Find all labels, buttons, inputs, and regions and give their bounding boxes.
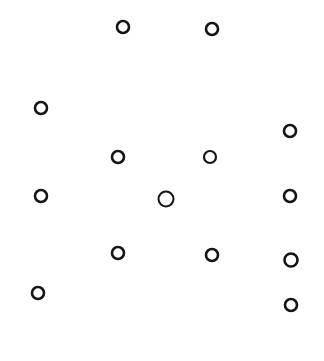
dot-diagram-canvas (0, 0, 324, 361)
circle-node-icon (112, 151, 124, 163)
circle-node-icon (206, 23, 218, 35)
circle-node-icon (117, 21, 129, 33)
circle-node-icon (285, 299, 297, 311)
circle-node-icon (284, 125, 296, 137)
circle-node-icon (35, 190, 47, 202)
circle-node-icon (206, 249, 218, 261)
circle-node-icon (284, 190, 296, 202)
circle-node-icon (285, 254, 298, 267)
circle-node-icon (204, 151, 216, 163)
circle-pattern-diagram (0, 0, 324, 361)
circle-node-icon (35, 102, 47, 114)
circle-node-icon (159, 192, 174, 207)
circle-node-icon (112, 247, 124, 259)
circle-node-icon (32, 287, 44, 299)
